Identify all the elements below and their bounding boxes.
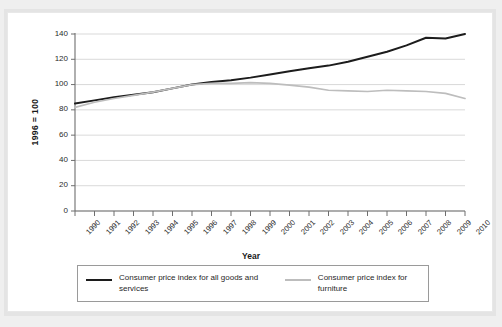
y-tick-label: 140 bbox=[34, 29, 68, 38]
legend-label: Consumer price index for furniture bbox=[318, 273, 428, 294]
y-tick-label: 0 bbox=[34, 206, 68, 215]
y-tick-label: 40 bbox=[34, 155, 68, 164]
y-tick-label: 120 bbox=[34, 54, 68, 63]
y-tick-label: 80 bbox=[34, 104, 68, 113]
y-tick-label: 100 bbox=[34, 79, 68, 88]
x-axis-title: Year bbox=[8, 251, 494, 261]
legend-line-swatch-icon bbox=[285, 279, 311, 281]
y-tick-label: 20 bbox=[34, 180, 68, 189]
legend-line-swatch-icon bbox=[86, 279, 112, 281]
legend-item-all-goods: Consumer price index for all goods and s… bbox=[78, 273, 277, 294]
y-tick-label: 60 bbox=[34, 130, 68, 139]
legend-item-furniture: Consumer price index for furniture bbox=[277, 273, 428, 294]
screenshot-canvas: 1996 = 100 Year 140120100806040200 19901… bbox=[0, 0, 502, 327]
data-series-line-furniture bbox=[75, 83, 465, 108]
chart-legend: Consumer price index for all goods and s… bbox=[77, 265, 429, 302]
data-series-line-all-goods bbox=[75, 34, 465, 104]
chart-card: 1996 = 100 Year 140120100806040200 19901… bbox=[7, 12, 493, 312]
legend-label: Consumer price index for all goods and s… bbox=[119, 273, 277, 294]
